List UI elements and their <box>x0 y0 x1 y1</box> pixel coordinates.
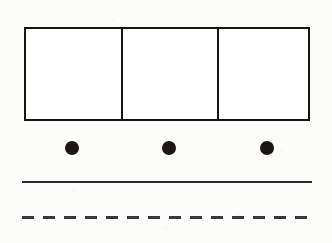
bar-model <box>24 27 310 121</box>
counter-dot-1 <box>65 141 79 155</box>
bar-cell-2 <box>121 29 218 119</box>
solid-rule <box>22 181 312 183</box>
counter-dot-3 <box>260 141 274 155</box>
figure-canvas <box>0 0 332 243</box>
dashed-rule <box>22 216 312 219</box>
counter-dot-2 <box>162 141 176 155</box>
bar-cell-3 <box>217 29 308 119</box>
bar-cell-1 <box>26 29 121 119</box>
